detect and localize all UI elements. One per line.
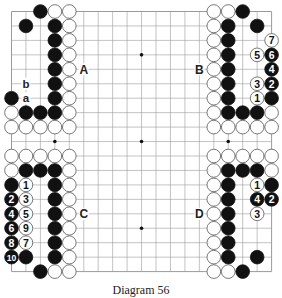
white-stone [221, 149, 235, 163]
white-stone [62, 149, 76, 163]
move-number: 3 [23, 193, 29, 205]
white-stone [62, 77, 76, 91]
black-stone [250, 164, 264, 178]
black-stone [48, 34, 62, 48]
black-stone [48, 250, 62, 264]
move-number: 7 [269, 34, 275, 46]
white-stone [265, 106, 279, 120]
black-stone: 4 [250, 193, 264, 207]
black-stone [250, 250, 264, 264]
black-stone [221, 91, 235, 105]
white-stone: 1 [250, 91, 264, 105]
white-stone [62, 178, 76, 192]
black-stone [221, 34, 235, 48]
black-stone [265, 178, 279, 192]
star-point [140, 226, 144, 230]
move-number: 9 [23, 222, 29, 234]
black-stone: 4 [265, 62, 279, 76]
star-point [226, 140, 230, 144]
white-stone [265, 164, 279, 178]
black-stone [221, 193, 235, 207]
white-stone [207, 5, 221, 19]
white-stone [207, 91, 221, 105]
black-stone [34, 164, 48, 178]
move-number: 10 [7, 253, 17, 263]
move-number: 6 [9, 222, 15, 234]
white-stone: 3 [250, 77, 264, 91]
white-stone [62, 193, 76, 207]
move-number: 5 [23, 208, 29, 220]
white-stone: 5 [19, 207, 33, 221]
white-stone [265, 149, 279, 163]
white-stone: 7 [265, 34, 279, 48]
black-stone [221, 164, 235, 178]
white-stone [5, 164, 19, 178]
black-stone [19, 106, 33, 120]
white-stone [207, 207, 221, 221]
black-stone [34, 265, 48, 279]
black-stone: 8 [5, 236, 19, 250]
white-stone [207, 62, 221, 76]
white-stone [34, 120, 48, 134]
white-stone [250, 120, 264, 134]
black-stone [236, 5, 250, 19]
black-stone [48, 91, 62, 105]
white-stone [48, 149, 62, 163]
white-stone [5, 149, 19, 163]
black-stone: 4 [5, 207, 19, 221]
black-stone [48, 19, 62, 33]
white-stone [265, 120, 279, 134]
go-board: 7564321123456987101423 ABCDba [0, 0, 282, 282]
black-stone [48, 77, 62, 91]
white-stone [207, 193, 221, 207]
black-stone [236, 164, 250, 178]
white-stone: 3 [19, 193, 33, 207]
black-stone: 10 [5, 250, 19, 264]
white-stone [48, 265, 62, 279]
white-stone [236, 149, 250, 163]
black-stone [221, 221, 235, 235]
white-stone [34, 149, 48, 163]
white-stone [62, 62, 76, 76]
black-stone [250, 19, 264, 33]
white-stone [207, 77, 221, 91]
black-stone [19, 19, 33, 33]
white-stone [62, 5, 76, 19]
white-stone [48, 5, 62, 19]
white-stone [207, 106, 221, 120]
move-number: 1 [254, 179, 260, 191]
white-stone: 7 [19, 236, 33, 250]
move-number: 8 [9, 237, 15, 249]
move-number: 3 [254, 208, 260, 220]
black-stone [221, 19, 235, 33]
white-stone: 9 [19, 221, 33, 235]
black-stone [48, 48, 62, 62]
move-number: 5 [254, 49, 260, 61]
white-stone [62, 236, 76, 250]
black-stone [221, 250, 235, 264]
region-label: D [195, 207, 204, 221]
black-stone [221, 48, 235, 62]
region-label: B [195, 63, 204, 77]
white-stone [207, 178, 221, 192]
white-stone [48, 120, 62, 134]
white-stone [62, 164, 76, 178]
white-stone [62, 19, 76, 33]
diagram-caption: Diagram 56 [0, 283, 282, 298]
move-number: 2 [269, 193, 275, 205]
black-stone [5, 91, 19, 105]
black-stone [48, 106, 62, 120]
white-stone [5, 120, 19, 134]
star-point [140, 140, 144, 144]
black-stone [250, 106, 264, 120]
white-stone [221, 265, 235, 279]
white-stone [207, 236, 221, 250]
move-number: 2 [9, 193, 15, 205]
white-stone [207, 120, 221, 134]
white-stone [62, 265, 76, 279]
white-stone [207, 250, 221, 264]
black-stone [34, 5, 48, 19]
move-number: 1 [254, 92, 260, 104]
white-stone [207, 164, 221, 178]
black-stone [221, 106, 235, 120]
